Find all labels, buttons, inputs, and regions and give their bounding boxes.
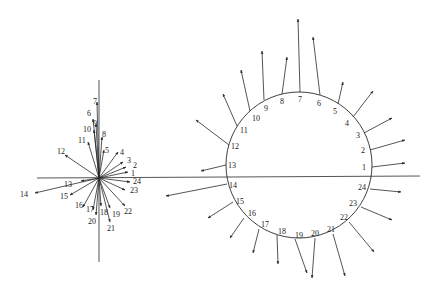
circle-vector-label: 19 — [295, 231, 303, 240]
star-vector-label: 20 — [88, 217, 96, 226]
circle-vector-arrow — [241, 70, 250, 111]
star-vector-label: 2 — [133, 161, 137, 170]
circle-vector-label: 7 — [298, 95, 302, 104]
star-vector-arrow — [96, 178, 99, 215]
circle-vector-arrow — [333, 234, 345, 276]
circle-vector-arrow — [253, 229, 259, 253]
star-vector-label: 6 — [87, 109, 91, 118]
circle-vector-label: 6 — [317, 99, 321, 108]
star-vector-label: 9 — [93, 119, 97, 128]
circle-vector-arrow — [262, 51, 264, 100]
circle-vector-label: 18 — [278, 227, 286, 236]
circle-vector-arrow — [196, 120, 229, 145]
star-vector-label: 4 — [120, 148, 124, 157]
circle-vector-arrow — [312, 238, 315, 278]
circle-vector-label: 12 — [231, 142, 239, 151]
circle-vector-arrow — [370, 140, 405, 150]
circle-vector-arrow — [361, 207, 392, 220]
vector-diagram: 123456789101112131415161718192021222324 … — [0, 0, 440, 294]
circle-vector-label: 21 — [327, 225, 335, 234]
circle-vector-arrow — [364, 118, 392, 133]
circle-vector-arrow — [230, 218, 244, 238]
circle-vector-arrow — [353, 91, 373, 117]
circle-vector-label: 1 — [362, 163, 366, 172]
star-vector-label: 12 — [57, 147, 65, 156]
star-vector-label: 23 — [130, 186, 138, 195]
circle-vector-label: 16 — [248, 209, 256, 218]
star-vector-label: 14 — [20, 190, 28, 199]
circle-vector-label: 4 — [345, 119, 349, 128]
circle-vector-label: 20 — [311, 229, 319, 238]
star-vector-arrow — [65, 155, 99, 178]
circle-vector-arrow — [349, 222, 374, 252]
circle-vector-label: 22 — [340, 213, 348, 222]
star-vector-label: 5 — [105, 146, 109, 155]
star-vector-label: 3 — [127, 156, 131, 165]
circle-vector-label: 15 — [236, 197, 244, 206]
circle-vector-label: 24 — [358, 183, 366, 192]
star-vector-label: 17 — [86, 205, 94, 214]
star-vector-label: 7 — [93, 97, 97, 106]
circle-vector-label: 9 — [264, 104, 268, 113]
circle-vector-arrow — [208, 202, 233, 218]
circle-vector-label: 3 — [356, 131, 360, 140]
circle-vector-label: 11 — [240, 126, 248, 135]
circle-vector-label: 14 — [229, 181, 237, 190]
star-vector-label: 11 — [78, 136, 86, 145]
circle-vector-arrow — [277, 235, 278, 264]
star-vector-label: 24 — [133, 177, 141, 186]
star-vector-label: 8 — [102, 130, 106, 139]
horizontal-axis — [37, 176, 420, 178]
circle-vector-arrow — [372, 163, 405, 167]
circle-vector-arrow — [166, 184, 227, 196]
circle-vector-label: 13 — [228, 161, 236, 170]
circle-vector-arrow — [298, 19, 300, 92]
circle-vector-arrow — [201, 165, 226, 171]
star-vector-label: 10 — [83, 125, 91, 134]
star-plot: 123456789101112131415161718192021222324 — [20, 97, 141, 233]
circle-plot: 123456789101112131415161718192021222324 — [166, 19, 405, 278]
circle-vector-label: 8 — [280, 97, 284, 106]
circle-vector-label: 5 — [333, 107, 337, 116]
circle-vector-arrow — [282, 57, 287, 94]
circle-vector-arrow — [223, 94, 237, 126]
circle-vector-arrow — [313, 37, 320, 95]
circle-vector-label: 23 — [349, 199, 357, 208]
star-vector-label: 16 — [75, 201, 83, 210]
circle-vector-label: 17 — [261, 220, 269, 229]
circle-vector-arrow — [338, 82, 343, 104]
circle-vector-arrow — [295, 239, 307, 273]
circle-vector-label: 2 — [361, 146, 365, 155]
star-vector-label: 15 — [60, 192, 68, 201]
circle-vector-label: 10 — [252, 114, 260, 123]
star-vector-label: 22 — [124, 207, 132, 216]
star-vector-label: 19 — [112, 210, 120, 219]
star-vector-label: 21 — [107, 224, 115, 233]
circle-vector-arrow — [370, 189, 401, 192]
